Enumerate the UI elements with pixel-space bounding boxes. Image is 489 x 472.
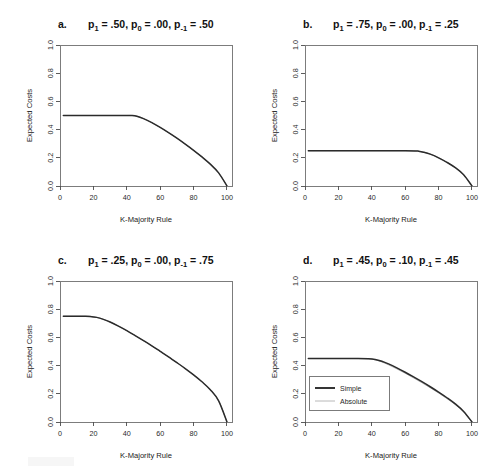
y-axis-label: Expected Costs (25, 89, 34, 142)
panel-letter: d. (303, 254, 312, 266)
y-tick-label: 0.8 (46, 304, 55, 314)
x-axis-label: K-Majority Rule (365, 451, 417, 460)
curve-simple (308, 151, 472, 186)
x-tick-label: 80 (434, 429, 442, 438)
x-tick-label: 100 (221, 193, 233, 202)
y-tick-label: 0.6 (46, 332, 55, 342)
x-tick-label: 20 (89, 429, 97, 438)
x-axis-label: K-Majority Rule (120, 215, 172, 224)
x-tick-label: 60 (401, 429, 409, 438)
y-tick-label: 0.8 (290, 68, 299, 78)
x-axis-label: K-Majority Rule (120, 451, 172, 460)
y-tick-label: 0.2 (290, 153, 299, 163)
x-tick-label: 80 (434, 193, 442, 202)
y-tick-label: 1.0 (46, 40, 55, 50)
x-tick-label: 0 (303, 429, 307, 438)
x-tick-label: 100 (221, 429, 233, 438)
x-tick-label: 20 (334, 429, 342, 438)
y-tick-label: 0.4 (290, 125, 299, 135)
x-tick-label: 80 (190, 429, 198, 438)
y-axis-label: Expected Costs (270, 325, 279, 378)
x-tick-label: 40 (123, 429, 131, 438)
curve-absolute (63, 316, 227, 422)
scan-artifact (28, 457, 74, 466)
x-tick-label: 100 (465, 429, 477, 438)
legend-label-absolute: Absolute (340, 398, 367, 405)
y-tick-label: 0.8 (290, 304, 299, 314)
x-tick-label: 40 (367, 429, 375, 438)
curve-absolute (63, 115, 227, 186)
figure-panel-grid: a.p1 = .50, p0 = .00, p-1 = .50020406080… (0, 0, 489, 472)
panel-letter: c. (58, 254, 67, 266)
x-tick-label: 20 (334, 193, 342, 202)
x-tick-label: 20 (89, 193, 97, 202)
x-tick-label: 60 (401, 193, 409, 202)
x-tick-label: 80 (190, 193, 198, 202)
x-tick-label: 100 (465, 193, 477, 202)
y-tick-label: 0.0 (290, 417, 299, 427)
x-tick-label: 40 (123, 193, 131, 202)
y-tick-label: 0.8 (46, 68, 55, 78)
x-tick-label: 60 (156, 193, 164, 202)
chart-panel-d: d.p1 = .45, p0 = .10, p-1 = .45020406080… (245, 236, 489, 472)
panel-title: p1 = .50, p0 = .00, p-1 = .50 (88, 18, 214, 33)
plot-frame (60, 281, 232, 422)
y-tick-label: 0.6 (290, 96, 299, 106)
x-tick-label: 0 (303, 193, 307, 202)
y-tick-label: 0.2 (290, 389, 299, 399)
panel-title: p1 = .45, p0 = .10, p-1 = .45 (333, 254, 459, 269)
y-tick-label: 0.6 (46, 96, 55, 106)
y-tick-label: 1.0 (290, 276, 299, 286)
curve-simple (63, 115, 227, 186)
y-tick-label: 0.6 (290, 332, 299, 342)
panel-title: p1 = .75, p0 = .00, p-1 = .25 (333, 18, 459, 33)
y-tick-label: 0.0 (46, 417, 55, 427)
y-tick-label: 0.0 (46, 181, 55, 191)
chart-panel-a: a.p1 = .50, p0 = .00, p-1 = .50020406080… (0, 0, 244, 236)
y-axis-label: Expected Costs (25, 325, 34, 378)
y-tick-label: 0.4 (46, 125, 55, 135)
y-tick-label: 0.4 (46, 361, 55, 371)
curve-absolute (308, 151, 472, 186)
y-axis-label: Expected Costs (270, 89, 279, 142)
x-axis-label: K-Majority Rule (365, 215, 417, 224)
x-tick-label: 0 (58, 193, 62, 202)
chart-panel-c: c.p1 = .25, p0 = .00, p-1 = .75020406080… (0, 236, 244, 472)
x-tick-label: 40 (367, 193, 375, 202)
curve-simple (63, 316, 227, 422)
legend-label-simple: Simple (340, 385, 362, 393)
panel-title: p1 = .25, p0 = .00, p-1 = .75 (88, 254, 214, 269)
y-tick-label: 1.0 (46, 276, 55, 286)
y-tick-label: 0.2 (46, 153, 55, 163)
y-tick-label: 0.0 (290, 181, 299, 191)
y-tick-label: 0.2 (46, 389, 55, 399)
panel-letter: b. (303, 18, 312, 30)
x-tick-label: 0 (58, 429, 62, 438)
x-tick-label: 60 (156, 429, 164, 438)
y-tick-label: 0.4 (290, 361, 299, 371)
panel-letter: a. (58, 18, 67, 30)
chart-panel-b: b.p1 = .75, p0 = .00, p-1 = .25020406080… (245, 0, 489, 236)
y-tick-label: 1.0 (290, 40, 299, 50)
